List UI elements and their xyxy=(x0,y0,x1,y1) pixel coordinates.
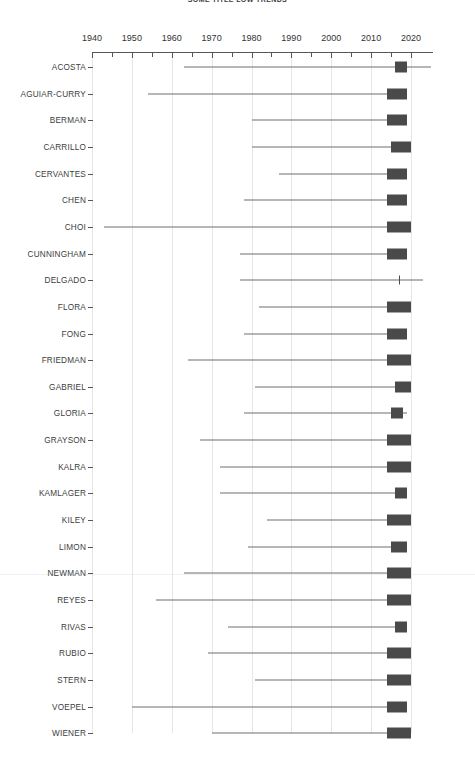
x-tick-1990 xyxy=(291,52,292,58)
x-tick-minor-2005 xyxy=(351,52,352,57)
x-tick-2000 xyxy=(331,52,332,58)
row-box-chen xyxy=(387,195,407,206)
gridline-2000 xyxy=(331,53,332,733)
gridline-2020 xyxy=(411,53,412,733)
x-tick-minor-1955 xyxy=(152,52,153,57)
row-label-kalra: KALRA xyxy=(58,462,86,471)
y-tick-aguiar-curry xyxy=(88,94,93,95)
x-tick-label-2010: 2010 xyxy=(361,33,381,43)
row-label-stern: STERN xyxy=(57,675,86,684)
row-line-newman xyxy=(184,573,399,574)
plot-area: 194019501960197019801990200020102020ACOS… xyxy=(0,0,475,765)
x-tick-2010 xyxy=(371,52,372,58)
row-box-friedman xyxy=(387,355,411,366)
row-line-friedman xyxy=(188,360,399,361)
gridline-1940 xyxy=(92,53,93,733)
gridline-1990 xyxy=(291,53,292,733)
x-tick-label-1970: 1970 xyxy=(202,33,222,43)
row-box-wiener xyxy=(387,728,411,739)
row-box-choi xyxy=(387,221,411,232)
x-tick-minor-1975 xyxy=(232,52,233,57)
y-tick-carrillo xyxy=(88,147,93,148)
row-line-gabriel xyxy=(255,386,407,387)
row-label-voepel: VOEPEL xyxy=(52,702,86,711)
y-tick-rubio xyxy=(88,653,93,654)
y-tick-friedman xyxy=(88,360,93,361)
row-line-cunningham xyxy=(240,253,400,254)
row-box-voepel xyxy=(387,701,407,712)
row-box-cervantes xyxy=(387,168,407,179)
y-tick-voepel xyxy=(88,707,93,708)
y-tick-gabriel xyxy=(88,387,93,388)
row-marker-delgado xyxy=(399,276,400,285)
x-tick-minor-1945 xyxy=(112,52,113,57)
row-line-voepel xyxy=(132,706,399,707)
x-tick-1970 xyxy=(212,52,213,58)
y-tick-stern xyxy=(88,680,93,681)
x-tick-label-1940: 1940 xyxy=(82,33,102,43)
row-box-grayson xyxy=(387,435,411,446)
row-label-delgado: DELGADO xyxy=(45,276,86,285)
row-box-kalra xyxy=(387,461,411,472)
row-label-friedman: FRIEDMAN xyxy=(42,356,86,365)
row-label-acosta: ACOSTA xyxy=(52,63,86,72)
y-tick-grayson xyxy=(88,440,93,441)
row-label-rivas: RIVAS xyxy=(61,622,86,631)
y-tick-newman xyxy=(88,573,93,574)
row-box-carrillo xyxy=(391,141,411,152)
range-chart: SOME TITLE LOW TRENDS 194019501960197019… xyxy=(0,0,475,765)
y-tick-cervantes xyxy=(88,174,93,175)
y-tick-rivas xyxy=(88,627,93,628)
row-label-grayson: GRAYSON xyxy=(44,436,86,445)
row-box-stern xyxy=(387,674,411,685)
row-label-carrillo: CARRILLO xyxy=(43,142,86,151)
x-tick-1950 xyxy=(132,52,133,58)
x-tick-minor-1995 xyxy=(311,52,312,57)
x-tick-1960 xyxy=(172,52,173,58)
x-tick-label-1960: 1960 xyxy=(162,33,182,43)
row-line-reyes xyxy=(156,600,399,601)
row-label-flora: FLORA xyxy=(58,302,86,311)
x-tick-minor-1985 xyxy=(271,52,272,57)
x-tick-minor-2015 xyxy=(391,52,392,57)
row-box-rubio xyxy=(387,648,411,659)
row-line-fong xyxy=(244,333,400,334)
y-tick-kalra xyxy=(88,467,93,468)
x-tick-label-1980: 1980 xyxy=(241,33,261,43)
row-line-carrillo xyxy=(252,146,400,147)
row-line-acosta xyxy=(184,67,431,68)
y-tick-wiener xyxy=(88,733,93,734)
row-line-chen xyxy=(244,200,400,201)
row-label-gloria: GLORIA xyxy=(54,409,86,418)
row-label-kamlager: KAMLAGER xyxy=(39,489,86,498)
y-tick-choi xyxy=(88,227,93,228)
y-tick-delgado xyxy=(88,280,93,281)
y-tick-acosta xyxy=(88,67,93,68)
gridline-2010 xyxy=(371,53,372,733)
row-box-rivas xyxy=(395,621,407,632)
row-line-grayson xyxy=(200,440,399,441)
row-label-cunningham: CUNNINGHAM xyxy=(28,249,86,258)
row-box-flora xyxy=(387,301,411,312)
x-tick-label-2020: 2020 xyxy=(401,33,421,43)
y-tick-cunningham xyxy=(88,254,93,255)
y-tick-gloria xyxy=(88,413,93,414)
row-box-berman xyxy=(387,115,407,126)
row-box-reyes xyxy=(387,595,411,606)
gridline-1970 xyxy=(212,53,213,733)
row-label-limon: LIMON xyxy=(59,542,86,551)
y-tick-flora xyxy=(88,307,93,308)
row-label-newman: NEWMAN xyxy=(48,569,87,578)
row-label-rubio: RUBIO xyxy=(59,649,86,658)
row-box-kiley xyxy=(387,515,411,526)
row-label-gabriel: GABRIEL xyxy=(49,382,86,391)
x-tick-2020 xyxy=(411,52,412,58)
x-tick-label-2000: 2000 xyxy=(321,33,341,43)
row-label-wiener: WIENER xyxy=(52,729,86,738)
y-tick-berman xyxy=(88,120,93,121)
gridline-1980 xyxy=(252,53,253,733)
y-tick-chen xyxy=(88,200,93,201)
x-tick-label-1950: 1950 xyxy=(122,33,142,43)
row-box-cunningham xyxy=(387,248,407,259)
x-tick-minor-1965 xyxy=(192,52,193,57)
